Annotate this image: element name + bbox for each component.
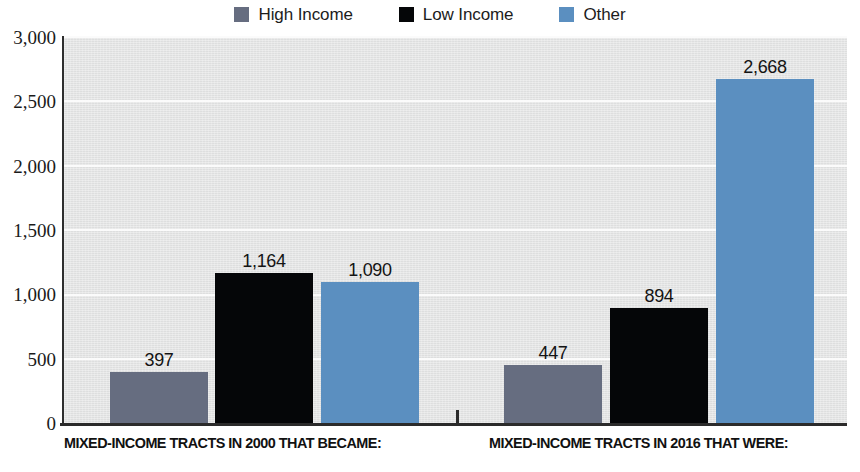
y-axis: 3,000 2,500 2,000 1,500 1,000 500 0 bbox=[0, 0, 56, 472]
x-axis-baseline bbox=[60, 423, 847, 426]
legend-label-other: Other bbox=[583, 6, 625, 23]
bar-low-income-2016[interactable]: 894 bbox=[610, 308, 708, 423]
bar-high-income-2000[interactable]: 397 bbox=[110, 372, 208, 423]
x-axis-group-divider-tick bbox=[456, 410, 459, 424]
legend-item-low-income: Low Income bbox=[399, 6, 514, 23]
y-tick-500: 500 bbox=[2, 350, 56, 369]
chart-legend: High Income Low Income Other bbox=[0, 0, 860, 28]
bar-rect bbox=[215, 273, 313, 423]
legend-item-high-income: High Income bbox=[234, 6, 352, 23]
bar-rect bbox=[110, 372, 208, 423]
plot-area: 397 1,164 1,090 447 894 2,668 bbox=[62, 36, 847, 423]
bar-value-other-2016: 2,668 bbox=[743, 58, 787, 76]
legend-swatch-other bbox=[559, 7, 574, 22]
legend-swatch-high-income bbox=[234, 7, 249, 22]
gridline-3000 bbox=[64, 36, 847, 38]
bar-rect bbox=[610, 308, 708, 423]
x-caption-group-2000: MIXED-INCOME TRACTS IN 2000 THAT BECAME: bbox=[64, 434, 381, 452]
bar-high-income-2016[interactable]: 447 bbox=[504, 365, 602, 423]
bar-rect bbox=[716, 79, 814, 423]
y-tick-1500: 1,500 bbox=[2, 221, 56, 240]
bar-other-2000[interactable]: 1,090 bbox=[321, 282, 419, 423]
bar-low-income-2000[interactable]: 1,164 bbox=[215, 273, 313, 423]
y-tick-3000: 3,000 bbox=[2, 28, 56, 47]
legend-swatch-low-income bbox=[399, 7, 414, 22]
x-caption-group-2016: MIXED-INCOME TRACTS IN 2016 THAT WERE: bbox=[489, 434, 788, 452]
bar-value-high-income-2000: 397 bbox=[144, 351, 173, 369]
y-tick-2500: 2,500 bbox=[2, 92, 56, 111]
bar-value-low-income-2000: 1,164 bbox=[242, 252, 286, 270]
x-axis-labels: MIXED-INCOME TRACTS IN 2000 THAT BECAME:… bbox=[0, 430, 860, 470]
legend-label-high-income: High Income bbox=[258, 6, 352, 23]
bar-value-low-income-2016: 894 bbox=[644, 287, 673, 305]
bar-other-2016[interactable]: 2,668 bbox=[716, 79, 814, 423]
bar-rect bbox=[321, 282, 419, 423]
bar-value-high-income-2016: 447 bbox=[538, 344, 567, 362]
y-tick-2000: 2,000 bbox=[2, 157, 56, 176]
legend-label-low-income: Low Income bbox=[423, 6, 514, 23]
y-tick-1000: 1,000 bbox=[2, 285, 56, 304]
bar-rect bbox=[504, 365, 602, 423]
legend-item-other: Other bbox=[559, 6, 625, 23]
bar-value-other-2000: 1,090 bbox=[348, 261, 392, 279]
